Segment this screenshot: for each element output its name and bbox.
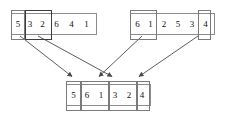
array-source-left-cells: 5 3 2 6 4 1	[12, 14, 94, 34]
cell-right-2: 2	[157, 13, 171, 35]
diagram-canvas: 5 3 2 6 4 1 6 1 2 5 3 4 5 6 1 3 2 4	[0, 0, 225, 117]
cell-left-3: 6	[49, 13, 64, 35]
array-destination-cells: 5 6 1 3 2 4	[67, 85, 148, 105]
array-source-left: 5 3 2 6 4 1	[11, 13, 97, 35]
arrow-right-seg2-to-dest-seg4	[139, 36, 198, 77]
array-source-right: 6 1 2 5 3 4	[130, 13, 215, 35]
cell-right-4: 3	[185, 13, 199, 35]
array-source-right-cells: 6 1 2 5 3 4	[131, 14, 212, 34]
arrow-left-seg2-to-dest-seg3	[38, 36, 112, 77]
cell-dest-5: 4	[136, 84, 148, 106]
cell-left-2: 2	[36, 13, 49, 35]
cell-right-5: 4	[199, 13, 212, 35]
arrow-right-seg1-to-dest-seg2	[99, 36, 142, 77]
cell-dest-1: 6	[80, 84, 94, 106]
cell-dest-4: 2	[122, 84, 136, 106]
cell-left-5: 1	[79, 13, 94, 35]
cell-left-4: 4	[64, 13, 79, 35]
cell-dest-3: 3	[108, 84, 122, 106]
cell-left-1: 3	[24, 13, 36, 35]
cell-dest-0: 5	[67, 84, 80, 106]
cell-right-3: 5	[171, 13, 185, 35]
cell-left-0: 5	[12, 13, 24, 35]
array-destination: 5 6 1 3 2 4	[66, 84, 151, 106]
cell-right-0: 6	[131, 13, 144, 35]
arrow-left-seg1-to-dest-seg1	[20, 36, 72, 77]
cell-right-1: 1	[144, 13, 157, 35]
cell-dest-2: 1	[94, 84, 108, 106]
